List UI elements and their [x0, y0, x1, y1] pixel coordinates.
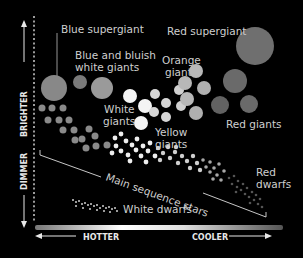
bluish-white-giant-star: [91, 77, 113, 99]
dimmer-label: DIMMER: [20, 153, 29, 190]
white-dwarfs-label: White dwarfs: [123, 203, 192, 215]
dimmer-arrow-icon: [21, 195, 27, 228]
brighter-arrow-icon: [21, 20, 27, 62]
white-dwarfs-stars: [72, 199, 118, 213]
red-giants-label: Red giants: [226, 118, 282, 130]
brighter-label: BRIGHTER: [20, 91, 29, 137]
red-supergiant-label: Red supergiant: [167, 25, 246, 37]
hr-diagram-svg: BRIGHTER DIMMER HOTTER COOLER Blue super…: [0, 0, 303, 258]
main-sequence-blue-stars: [39, 105, 111, 152]
cooler-label: COOLER: [192, 233, 228, 242]
red-giants-group: [211, 69, 258, 114]
blue-giant-star: [73, 75, 87, 89]
blue-supergiant-label: Blue supergiant: [61, 23, 144, 35]
main-sequence-orange-stars: [201, 158, 226, 182]
yellow-giants-group: [149, 85, 186, 122]
red-dwarfs-label-1: Red: [256, 166, 276, 178]
yellow-giants-label-1: Yellow: [154, 126, 188, 138]
blue-giants-label-2: white giants: [75, 61, 139, 73]
cooler-arrow-icon: [229, 233, 272, 239]
white-giants-label-1: White: [104, 103, 135, 115]
blue-giants-label-1: Blue and bluish: [75, 49, 156, 61]
red-dwarfs-label-2: dwarfs: [256, 178, 291, 190]
hotter-arrow-icon: [35, 233, 76, 239]
white-giants-label-2: giants: [103, 115, 135, 127]
hr-diagram: BRIGHTER DIMMER HOTTER COOLER Blue super…: [0, 0, 303, 258]
main-sequence-white-stars: [110, 132, 158, 165]
hotter-label: HOTTER: [83, 233, 119, 242]
blue-supergiant-star: [41, 75, 67, 101]
temperature-bar: [35, 225, 283, 230]
